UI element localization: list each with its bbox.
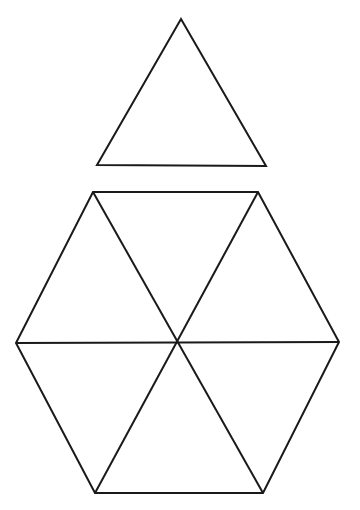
geometry-figure-canvas xyxy=(0,0,360,510)
canvas-background xyxy=(0,0,360,510)
